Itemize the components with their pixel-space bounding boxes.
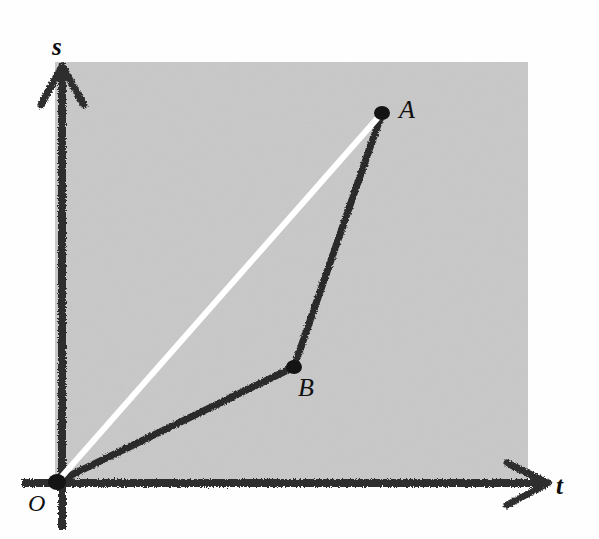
t-axis-label: t	[556, 473, 563, 498]
point-a-label: A	[399, 97, 415, 123]
marker-O	[48, 474, 66, 490]
figure-canvas: s t O A B	[0, 0, 599, 539]
marker-B	[286, 360, 302, 374]
origin-label: O	[28, 491, 45, 515]
marker-A	[374, 106, 390, 120]
point-b-label: B	[298, 375, 314, 401]
paper-grain-overlay	[55, 62, 528, 481]
s-axis-label: s	[52, 34, 62, 59]
diagram-svg	[0, 0, 599, 539]
